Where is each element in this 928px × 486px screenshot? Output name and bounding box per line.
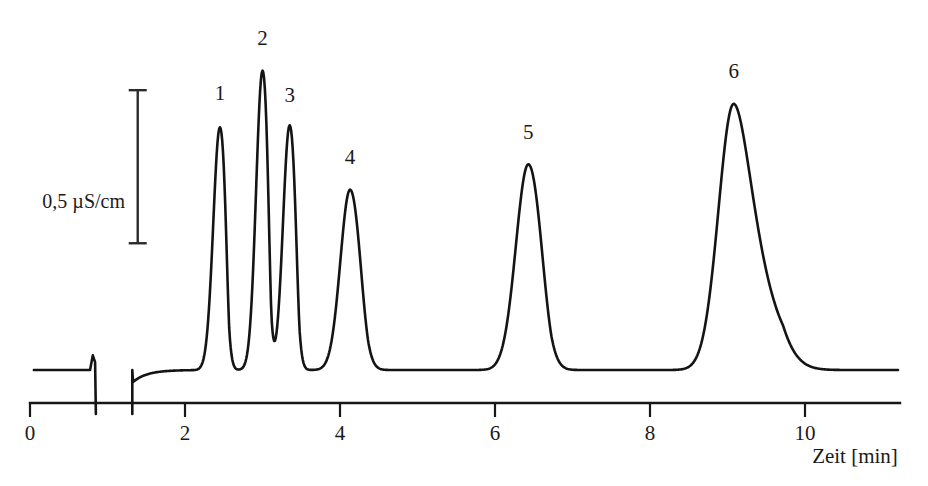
peak-label-3: 3 [284,83,295,107]
x-axis-tick-labels: 0246810 [25,421,816,445]
x-axis-tick-label: 4 [335,421,346,445]
chromatogram-plot: 0246810 Zeit [min] 0,5 µS/cm 123456 [0,0,928,486]
x-axis-title: Zeit [min] [812,444,898,468]
x-axis-tick-label: 0 [25,421,36,445]
x-axis-tick-label: 6 [490,421,501,445]
scale-bar-label: 0,5 µS/cm [42,190,125,213]
x-axis-group: 0246810 Zeit [min] [25,403,900,468]
x-axis-ticks [30,403,805,417]
peak-label-2: 2 [257,26,268,50]
peak-label-5: 5 [523,120,534,144]
chromatogram-trace [34,71,898,414]
peak-label-6: 6 [728,59,739,83]
peak-label-4: 4 [345,145,356,169]
x-axis-tick-label: 2 [180,421,191,445]
scale-bar [129,90,147,243]
x-axis-tick-label: 10 [795,421,816,445]
x-axis-tick-label: 8 [645,421,656,445]
chromatogram-figure: 0246810 Zeit [min] 0,5 µS/cm 123456 [0,0,928,486]
scale-bar-group: 0,5 µS/cm [42,90,146,243]
peak-label-1: 1 [215,81,226,105]
